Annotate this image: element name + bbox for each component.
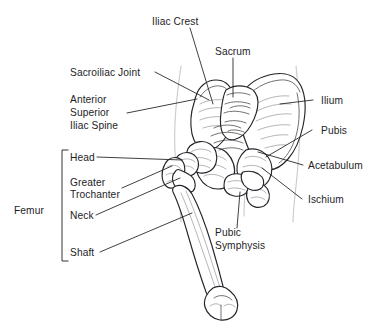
label-greater-line1: Greater [70,177,106,188]
label-ischium: Ischium [308,194,344,205]
label-pubic-line1: Pubic [215,227,241,238]
label-anterior-line2: Superior [70,107,110,118]
label-ilium: Ilium [321,95,343,106]
femur-bracket [62,150,68,261]
label-sacroiliac-joint: Sacroiliac Joint [70,67,140,78]
leader-sacroiliac-joint [155,72,209,100]
label-femur: Femur [14,205,44,216]
leader-shaft [100,213,192,252]
label-pubic-line2: Symphysis [215,240,265,251]
anatomy-figure: Iliac Crest Sacrum Sacroiliac Joint Ante… [0,0,387,334]
label-iliac-crest: Iliac Crest [152,16,198,27]
label-greater-line2: Trochanter [70,189,120,200]
label-anterior-line3: Iliac Spine [70,120,118,131]
label-head: Head [70,152,95,163]
label-pubis: Pubis [321,125,347,136]
label-acetabulum: Acetabulum [308,160,363,171]
leader-pubic-symphysis [237,192,240,228]
label-shaft: Shaft [70,247,94,258]
label-anterior-line1: Anterior [70,94,107,105]
label-sacrum: Sacrum [215,46,251,57]
label-neck: Neck [70,210,94,221]
leader-anterior-spine [127,99,197,113]
